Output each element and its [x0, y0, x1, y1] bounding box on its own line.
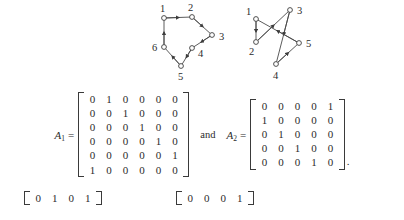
matrix-cell-1-5: 0: [150, 92, 167, 106]
matrix-cell-1-4: 1: [232, 191, 249, 205]
matrix-cell-1-6: 0: [167, 92, 184, 106]
matrix-row: 01000: [256, 128, 339, 142]
matrix-row: 001000: [84, 106, 183, 120]
matrix-cell-1-1: 0: [84, 92, 101, 106]
matrix-cell-4-3: 1: [289, 142, 306, 156]
matrix-cell-3-4: 1: [134, 120, 151, 134]
node-1: [162, 16, 167, 21]
matrix-cell-1-4: 0: [306, 99, 323, 113]
matrix-2-label: A2: [226, 129, 236, 141]
matrix-cell-3-1: 0: [256, 128, 273, 142]
vector-1-right-bracket: [96, 191, 102, 205]
graphs-figure: 1 2 3 4 5 6: [0, 0, 404, 88]
node-label-2: 2: [188, 2, 193, 13]
graph-2: 1 2 3 4 5: [243, 2, 321, 88]
matrix-cell-5-3: 0: [289, 156, 306, 170]
matrix-cell-4-2: 0: [273, 142, 290, 156]
matrix-cell-1-2: 0: [273, 99, 290, 113]
matrix-cell-1-3: 0: [63, 191, 80, 205]
node-label-5: 5: [306, 38, 311, 49]
matrix-cell-3-3: 0: [117, 120, 134, 134]
matrix-cell-6-4: 0: [134, 163, 151, 177]
matrix-cell-5-2: 0: [273, 156, 290, 170]
matrix-cell-5-1: 0: [256, 156, 273, 170]
matrix-cell-1-3: 0: [289, 99, 306, 113]
graph-1: 1 2 3 4 5 6: [148, 2, 236, 88]
matrix-cell-1-2: 0: [199, 191, 216, 205]
node-4: [190, 46, 195, 51]
matrix-cell-2-2: 0: [273, 113, 290, 127]
matrix-cell-3-4: 0: [306, 128, 323, 142]
node-label-5: 5: [178, 71, 183, 82]
matrix-cell-1-4: 1: [80, 191, 97, 205]
partial-vector-1: 0101: [24, 191, 102, 209]
matrix-cell-1-5: 1: [322, 99, 339, 113]
matrix-cell-1-4: 0: [134, 92, 151, 106]
node-3: [210, 33, 215, 38]
graph-1-arrowheads: [164, 17, 212, 66]
matrix-cell-4-6: 0: [167, 135, 184, 149]
matrix-cell-5-2: 0: [101, 149, 118, 163]
node-1: [254, 17, 259, 22]
matrix-cell-2-3: 0: [289, 113, 306, 127]
matrix-cell-5-3: 0: [117, 149, 134, 163]
matrix-1-equals: =: [68, 129, 74, 141]
graph-1-node-labels: 1 2 3 4 5 6: [152, 2, 224, 82]
matrix-cell-2-5: 0: [322, 113, 339, 127]
matrix-row: 0101: [30, 191, 96, 205]
arrow-5-1: [277, 31, 299, 44]
arrow-2-3: [256, 25, 274, 42]
matrix-cell-5-5: 0: [150, 149, 167, 163]
node-label-3: 3: [297, 5, 302, 16]
node-6: [162, 45, 167, 50]
matrix-cell-4-1: 0: [84, 135, 101, 149]
matrix-cell-4-5: 1: [150, 135, 167, 149]
adjacency-matrices-equation: A1 = 01000000100000010000001000000110000…: [0, 92, 404, 177]
arrow-3-4: [284, 10, 291, 35]
matrix-cell-4-3: 0: [117, 135, 134, 149]
matrix-row: 000100: [84, 120, 183, 134]
matrix-cell-2-3: 1: [117, 106, 134, 120]
matrix-cell-5-5: 0: [322, 156, 339, 170]
matrix-2-subscript: 2: [233, 134, 237, 143]
node-label-4: 4: [273, 70, 279, 81]
matrix-cell-1-1: 0: [30, 191, 47, 205]
matrix-row: 100000: [84, 163, 183, 177]
matrix-cell-2-6: 0: [167, 106, 184, 120]
matrix-cell-5-4: 1: [306, 156, 323, 170]
matrix-1: 010000001000000100000010000001100000: [78, 92, 189, 177]
matrix-2-equals: =: [240, 129, 246, 141]
matrix-cell-4-1: 0: [256, 142, 273, 156]
matrix-cell-4-4: 0: [306, 142, 323, 156]
matrix-row: 00010: [256, 156, 339, 170]
matrix-cell-1-2: 1: [47, 191, 64, 205]
matrix-row: 00001: [256, 99, 339, 113]
node-label-1: 1: [160, 3, 165, 14]
matrix-cell-2-1: 0: [84, 106, 101, 120]
matrix-cell-1-1: 0: [182, 191, 199, 205]
matrix-cell-6-3: 0: [117, 163, 134, 177]
node-2: [190, 15, 195, 20]
node-label-1: 1: [246, 6, 251, 17]
node-2: [254, 40, 259, 45]
matrix-cell-4-4: 0: [134, 135, 151, 149]
graph-2-arrowheads: [256, 10, 299, 64]
matrix-2: 0000110000010000010000010: [250, 99, 345, 170]
matrix-2-grid: 0000110000010000010000010: [256, 99, 339, 170]
matrix-cell-5-1: 0: [84, 149, 101, 163]
matrix-2-right-bracket: [339, 99, 345, 170]
matrix-1-label: A1: [55, 129, 65, 141]
matrix-cell-2-1: 1: [256, 113, 273, 127]
vector-2: 0001: [176, 191, 254, 205]
graph-2-edges: [256, 10, 299, 64]
matrix-cell-2-4: 0: [306, 113, 323, 127]
matrix-1-block: A1 = 01000000100000010000001000000110000…: [55, 92, 190, 177]
node-3: [288, 8, 293, 13]
node-label-3: 3: [219, 31, 224, 42]
matrix-cell-3-6: 0: [167, 120, 184, 134]
matrix-1-right-bracket: [183, 92, 189, 177]
matrix-cell-2-5: 0: [150, 106, 167, 120]
vector-1: 0101: [24, 191, 102, 205]
graph-2-canvas: 1 2 3 4 5: [243, 2, 321, 88]
matrix-1-grid: 010000001000000100000010000001100000: [84, 92, 183, 177]
